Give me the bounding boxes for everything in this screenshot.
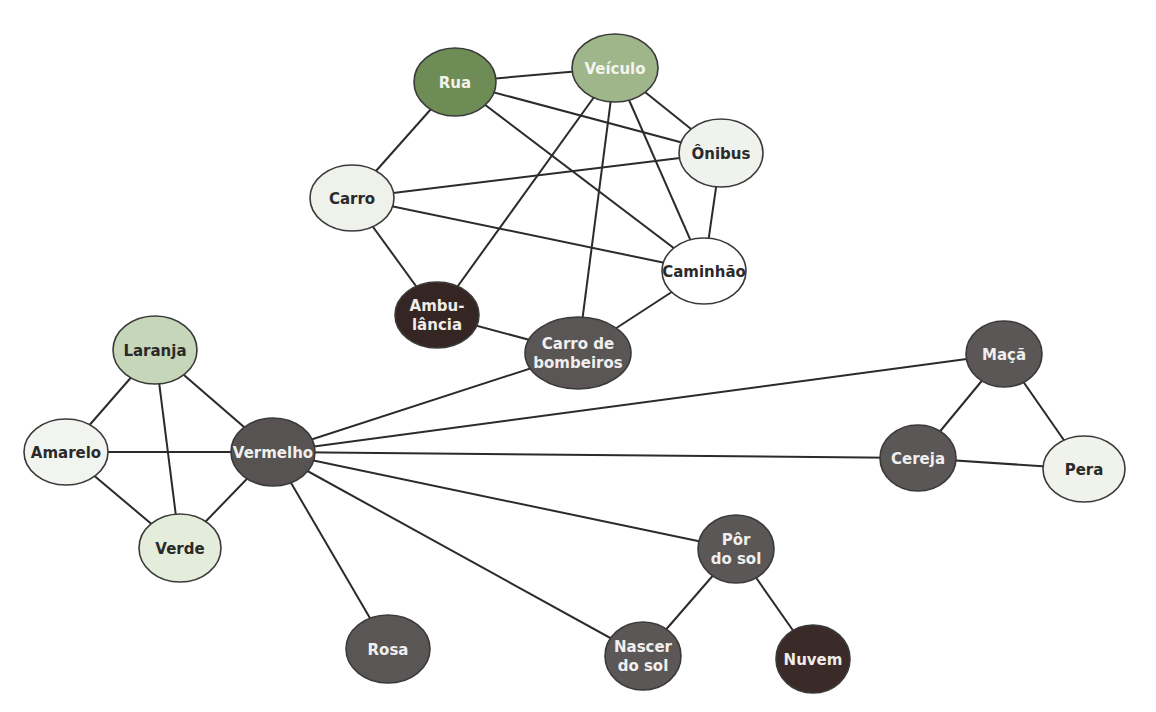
node-label: Maçã — [982, 346, 1026, 364]
node-veiculo: Veículo — [572, 34, 658, 102]
node-nascer_do_sol: Nascerdo sol — [605, 622, 681, 690]
node-label: Vermelho — [233, 444, 313, 462]
node-maca: Maçã — [966, 321, 1042, 387]
node-label: Rosa — [368, 641, 409, 659]
node-caminhao: Caminhão — [662, 238, 746, 304]
node-nuvem: Nuvem — [776, 625, 850, 693]
node-layer: RuaVeículoÔnibusCarroCaminhãoAmbu-lância… — [24, 34, 1125, 693]
node-label: Ambu- — [410, 297, 465, 315]
node-label: Pôr — [722, 531, 751, 549]
node-label: Pera — [1065, 461, 1104, 479]
node-ambulancia: Ambu-lância — [395, 282, 479, 348]
node-label: bombeiros — [533, 354, 622, 372]
node-carro: Carro — [310, 165, 394, 231]
node-label: Laranja — [123, 342, 186, 360]
node-label: Carro — [329, 190, 375, 208]
node-ellipse — [525, 317, 631, 389]
node-label: Carro de — [542, 335, 614, 353]
node-label: Amarelo — [31, 444, 101, 462]
node-laranja: Laranja — [113, 316, 197, 384]
node-label: Nascer — [614, 638, 673, 656]
edge-carro-onibus — [352, 153, 721, 198]
node-label: Verde — [155, 540, 204, 558]
node-rosa: Rosa — [346, 615, 430, 683]
node-vermelho: Vermelho — [231, 418, 315, 486]
edge-carro-caminhao — [352, 198, 704, 271]
node-label: Cereja — [891, 450, 945, 468]
node-por_do_sol: Pôrdo sol — [698, 515, 774, 583]
node-label: do sol — [711, 550, 762, 568]
node-carro_bombeiros: Carro debombeiros — [525, 317, 631, 389]
node-pera: Pera — [1043, 436, 1125, 502]
edge-vermelho-cereja — [273, 452, 918, 458]
node-label: do sol — [618, 657, 669, 675]
node-onibus: Ônibus — [679, 119, 763, 187]
node-label: lância — [412, 316, 462, 334]
node-label: Veículo — [584, 60, 645, 78]
node-verde: Verde — [139, 514, 221, 582]
edge-vermelho-nascer_do_sol — [273, 452, 643, 656]
edge-vermelho-por_do_sol — [273, 452, 736, 549]
node-ellipse — [698, 515, 774, 583]
node-ellipse — [395, 282, 479, 348]
node-label: Nuvem — [784, 651, 843, 669]
node-label: Caminhão — [662, 263, 746, 281]
node-rua: Rua — [414, 48, 496, 116]
node-ellipse — [605, 622, 681, 690]
node-label: Rua — [439, 74, 471, 92]
node-cereja: Cereja — [880, 425, 956, 491]
node-amarelo: Amarelo — [24, 419, 108, 485]
semantic-network-diagram: RuaVeículoÔnibusCarroCaminhãoAmbu-lância… — [0, 0, 1156, 712]
node-label: Ônibus — [692, 144, 751, 163]
